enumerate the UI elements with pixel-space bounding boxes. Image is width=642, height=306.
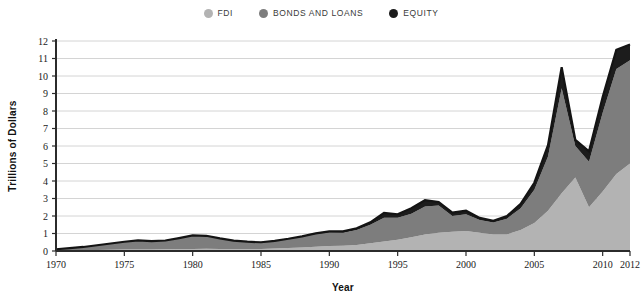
x-tick-label-1985: 1985: [251, 259, 271, 270]
y-tick-label-3: 3: [43, 193, 48, 204]
x-tick-label-1970: 1970: [46, 259, 66, 270]
x-axis-tick-labels: 1970197519801985199019952000200520102012: [46, 259, 640, 270]
y-tick-label-7: 7: [43, 123, 48, 134]
y-tick-label-9: 9: [43, 88, 48, 99]
x-tick-label-2000: 2000: [456, 259, 476, 270]
y-tick-label-2: 2: [43, 211, 48, 222]
y-axis-title: Trillions of Dollars: [7, 100, 18, 191]
stacked-area-series: [56, 45, 630, 252]
x-tick-label-1990: 1990: [319, 259, 339, 270]
y-axis-tick-labels: 0123456789101112: [38, 36, 48, 257]
y-tick-label-4: 4: [43, 176, 48, 187]
y-tick-label-5: 5: [43, 158, 48, 169]
x-tick-label-1995: 1995: [388, 259, 408, 270]
y-tick-label-10: 10: [38, 71, 48, 82]
y-tick-label-11: 11: [38, 53, 48, 64]
x-tick-label-2010: 2010: [593, 259, 613, 270]
y-tick-label-1: 1: [43, 228, 48, 239]
x-tick-label-2005: 2005: [524, 259, 544, 270]
y-tick-label-6: 6: [43, 141, 48, 152]
x-axis-title: Year: [332, 282, 354, 293]
y-tick-label-0: 0: [43, 246, 48, 257]
x-tick-label-2012: 2012: [620, 259, 640, 270]
plot-svg: 0123456789101112 19701975198019851990199…: [0, 0, 642, 306]
y-tick-label-12: 12: [38, 36, 48, 47]
y-tick-label-8: 8: [43, 106, 48, 117]
investment-flows-area-chart: FDI BONDS AND LOANS EQUITY 0123456789101…: [0, 0, 642, 306]
plot-area-wrapper: 0123456789101112 19701975198019851990199…: [0, 0, 642, 306]
x-tick-label-1975: 1975: [114, 259, 134, 270]
x-tick-label-1980: 1980: [183, 259, 203, 270]
